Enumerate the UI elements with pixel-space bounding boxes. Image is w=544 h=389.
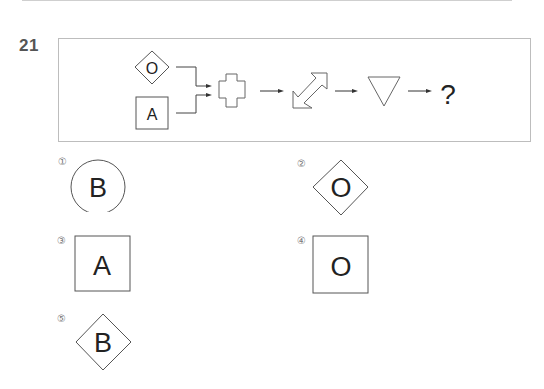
cross-plus-icon <box>219 74 245 107</box>
option-2-shape: O <box>295 155 375 215</box>
option-2[interactable]: ② O <box>295 155 375 215</box>
arrow-head-icon <box>206 93 212 97</box>
input-diamond-letter: O <box>146 60 158 77</box>
option-4-shape: O <box>295 233 375 295</box>
option-3[interactable]: ③ A <box>55 233 135 295</box>
option-4[interactable]: ④ O <box>295 233 375 295</box>
option-5[interactable]: ⑤ B <box>55 311 135 375</box>
arrow-head-icon <box>426 89 432 93</box>
result-question-mark: ? <box>440 79 456 110</box>
option-3-letter: A <box>93 251 111 281</box>
arrow-head-icon <box>206 84 212 88</box>
option-3-shape: A <box>55 233 135 295</box>
option-1[interactable]: ① B <box>55 152 135 212</box>
sequence-diagram: O A ? <box>0 0 544 160</box>
down-triangle-icon <box>368 77 400 106</box>
input-square-shape: A <box>136 97 168 129</box>
input-square-letter: A <box>147 106 158 123</box>
input-diamond-shape: O <box>135 51 169 84</box>
option-5-letter: B <box>94 328 112 358</box>
option-1-letter: B <box>89 173 107 203</box>
option-1-shape: B <box>55 152 135 212</box>
arrow-head-icon <box>352 89 358 93</box>
option-4-letter: O <box>330 252 351 282</box>
option-2-letter: O <box>330 173 351 203</box>
merge-connector <box>176 67 209 113</box>
arrow-head-icon <box>278 89 284 93</box>
double-diagonal-arrow-icon <box>293 73 327 108</box>
option-5-shape: B <box>55 311 135 375</box>
